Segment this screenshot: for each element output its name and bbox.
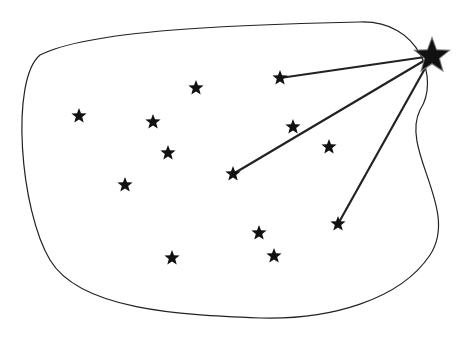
- stars-group: [71, 70, 345, 265]
- star-icon: [272, 70, 287, 85]
- star-icon: [225, 166, 240, 181]
- connection-lines: [233, 56, 432, 224]
- star-icon: [117, 177, 132, 192]
- region-boundary: [22, 22, 439, 318]
- diagram-canvas: [0, 0, 470, 340]
- connection-line: [233, 56, 432, 174]
- external-star-icon: [413, 36, 451, 72]
- star-icon: [321, 139, 336, 154]
- star-icon: [330, 216, 345, 231]
- star-icon: [251, 225, 266, 240]
- connection-line: [280, 56, 432, 78]
- star-icon: [285, 119, 300, 134]
- star-icon: [145, 114, 160, 129]
- star-icon: [164, 250, 179, 265]
- star-icon: [188, 80, 203, 95]
- connection-line: [338, 56, 432, 224]
- star-icon: [71, 108, 86, 123]
- star-icon: [160, 145, 175, 160]
- star-icon: [266, 248, 281, 263]
